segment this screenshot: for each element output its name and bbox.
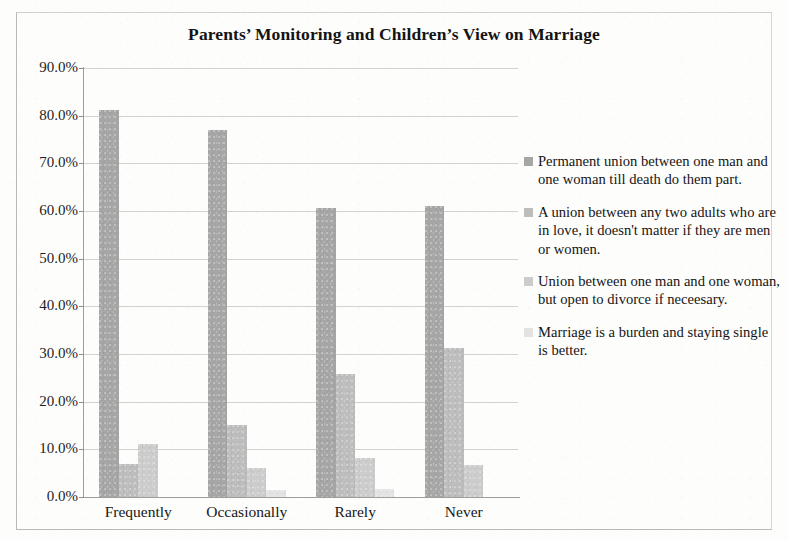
gridline [84, 497, 518, 498]
y-axis-tick-label: 30.0% [6, 346, 78, 361]
bar [247, 468, 267, 497]
legend-item[interactable]: Union between one man and one woman, but… [524, 272, 780, 309]
gridline [84, 306, 518, 307]
y-axis-tick [79, 163, 84, 164]
chart-legend: Permanent union between one man and one … [524, 152, 780, 373]
gridline [84, 116, 518, 117]
bar [99, 110, 119, 497]
y-axis-tick-label: 40.0% [6, 298, 78, 313]
bar [336, 374, 356, 497]
x-axis-category-label: Never [410, 503, 519, 521]
gridline [84, 163, 518, 164]
legend-label: Marriage is a burden and staying single … [538, 323, 780, 360]
bar [227, 425, 247, 497]
y-axis-tick-label: 0.0% [6, 489, 78, 504]
legend-swatch-icon [524, 277, 533, 286]
legend-label: A union between any two adults who are i… [538, 203, 780, 258]
bar [355, 458, 375, 497]
bar [266, 490, 286, 497]
bar [138, 444, 158, 497]
bar [119, 464, 139, 497]
bar [464, 465, 484, 497]
legend-label: Permanent union between one man and one … [538, 152, 780, 189]
y-axis-tick [79, 116, 84, 117]
y-axis-tick-label: 80.0% [6, 108, 78, 123]
y-axis-tick [79, 449, 84, 450]
y-axis-tick [79, 211, 84, 212]
y-axis-tick-label: 10.0% [6, 441, 78, 456]
chart-title: Parents’ Monitoring and Children’s View … [0, 24, 788, 45]
bar [375, 489, 395, 497]
plot-area [84, 68, 518, 497]
legend-item[interactable]: Permanent union between one man and one … [524, 152, 780, 189]
legend-swatch-icon [524, 157, 533, 166]
y-axis-labels: 0.0%10.0%20.0%30.0%40.0%50.0%60.0%70.0%8… [0, 0, 78, 540]
y-axis-tick-label: 90.0% [6, 60, 78, 75]
x-axis-category-label: Rarely [301, 503, 410, 521]
bar [316, 208, 336, 497]
y-axis-tick [79, 354, 84, 355]
y-axis-tick-label: 20.0% [6, 394, 78, 409]
bar [208, 130, 228, 497]
x-axis-category-label: Frequently [84, 503, 193, 521]
gridline [84, 259, 518, 260]
x-axis-category-label: Occasionally [193, 503, 302, 521]
bar [425, 206, 445, 497]
y-axis-tick [79, 259, 84, 260]
y-axis-tick-label: 50.0% [6, 251, 78, 266]
y-axis-tick-label: 70.0% [6, 155, 78, 170]
y-axis-tick [79, 68, 84, 69]
x-axis-category-labels: FrequentlyOccasionallyRarelyNever [84, 503, 518, 533]
legend-swatch-icon [524, 208, 533, 217]
gridline [84, 211, 518, 212]
y-axis-tick-label: 60.0% [6, 203, 78, 218]
legend-label: Union between one man and one woman, but… [538, 272, 780, 309]
legend-item[interactable]: A union between any two adults who are i… [524, 203, 780, 258]
legend-item[interactable]: Marriage is a burden and staying single … [524, 323, 780, 360]
y-axis-tick [79, 497, 84, 498]
gridline [84, 68, 518, 69]
y-axis-tick [79, 306, 84, 307]
legend-swatch-icon [524, 328, 533, 337]
bar [444, 348, 464, 497]
y-axis-tick [79, 402, 84, 403]
chart-screenshot: Parents’ Monitoring and Children’s View … [0, 0, 788, 540]
